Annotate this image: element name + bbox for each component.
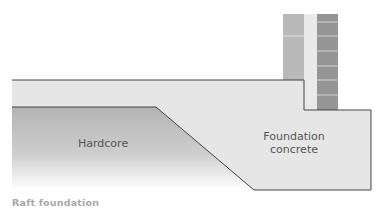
hardcore-label: Hardcore xyxy=(78,137,128,150)
cavity xyxy=(304,14,317,110)
raft-foundation-diagram xyxy=(0,0,386,211)
foundation-label-line1: Foundation xyxy=(262,130,326,143)
outer-brick-wall xyxy=(317,14,338,110)
foundation-concrete-label: Foundation concrete xyxy=(262,130,326,156)
foundation-label-line2: concrete xyxy=(262,143,326,156)
figure-caption: Raft foundation xyxy=(12,197,99,208)
